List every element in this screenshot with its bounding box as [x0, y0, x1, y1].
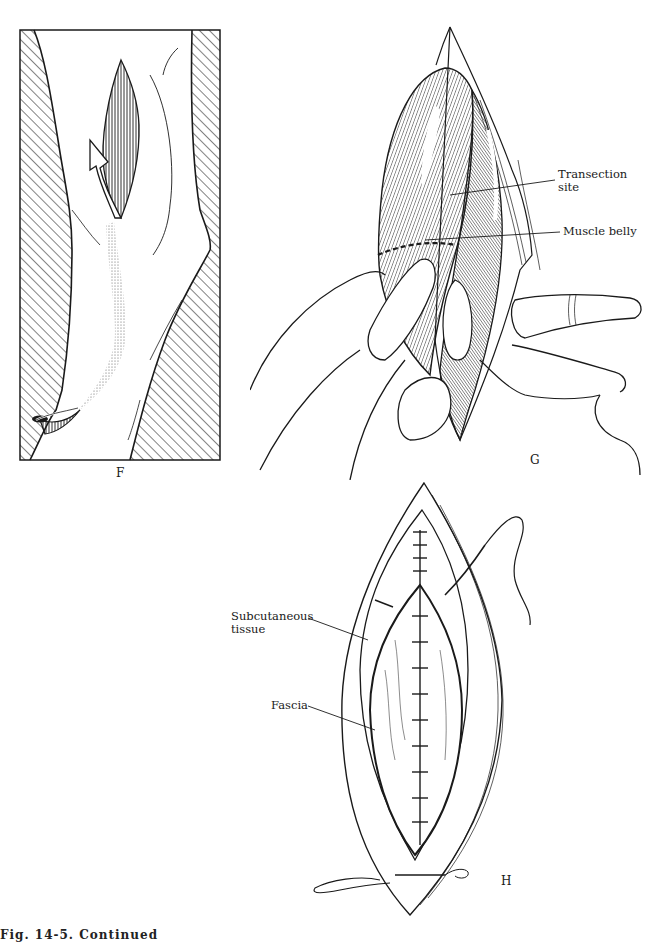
panel-g: Transection site Muscle belly G	[250, 0, 659, 480]
figure-caption-partial: Fig. 14-5. Continued	[0, 928, 158, 942]
label-fascia: Fascia	[271, 699, 308, 712]
panel-h: Subcutaneous tissue Fascia H	[200, 470, 580, 936]
panel-f-illustration	[0, 0, 240, 490]
panel-f-letter: F	[116, 466, 124, 480]
label-muscle-belly: Muscle belly	[563, 225, 637, 238]
panel-h-letter: H	[501, 874, 511, 888]
panel-g-illustration	[250, 0, 659, 480]
label-subcutaneous-tissue: Subcutaneous tissue	[231, 610, 313, 636]
panel-f: F	[0, 0, 240, 490]
label-transection-site: Transection site	[558, 168, 627, 194]
panel-g-letter: G	[530, 453, 540, 467]
panel-h-illustration	[200, 470, 580, 936]
